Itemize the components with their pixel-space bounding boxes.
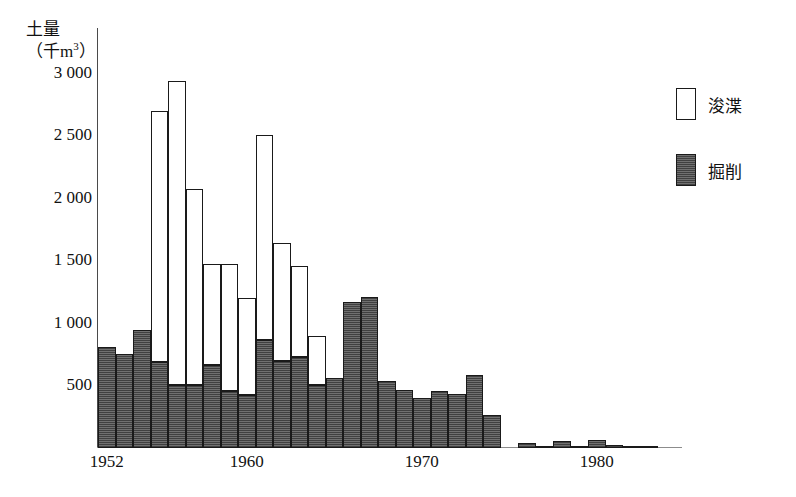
bar-segment-excavation-1963 [291,357,309,448]
legend: 浚渫掘削 [676,88,786,220]
bar-segment-excavation-1962 [273,361,291,448]
bar-1952 [98,347,116,448]
bar-segment-excavation-1967 [361,297,379,448]
bar-1976 [518,443,536,448]
bar-1961 [256,135,274,448]
bar-segment-dredging-1964 [308,336,326,385]
bar-chart: 土量（千m3） 5001 0001 5002 0002 5003 000 195… [0,0,796,497]
bar-1970 [413,398,431,448]
bar-segment-excavation-1969 [396,390,414,448]
bar-segment-dredging-1959 [221,264,239,391]
bar-segment-excavation-1961 [256,340,274,448]
bar-1973 [466,375,484,448]
bar-1972 [448,394,466,448]
bar-1958 [203,264,221,448]
y-axis-tick-1500: 1 500 [54,250,92,270]
bar-segment-dredging-1963 [291,266,309,357]
bar-1969 [396,390,414,448]
bar-1980 [588,440,606,448]
y-axis-tick-3000: 3 000 [54,63,92,83]
legend-label: 浚渫 [708,92,742,117]
bar-1957 [186,189,204,448]
bar-1968 [378,381,396,448]
bar-segment-excavation-1954 [133,330,151,448]
bar-segment-dredging-1962 [273,243,291,361]
bar-1971 [431,391,449,448]
bar-1979 [571,446,589,449]
bar-1964 [308,336,326,448]
y-axis-tick-500: 500 [67,375,93,395]
bar-segment-dredging-1960 [238,298,256,394]
bar-1978 [553,441,571,449]
bar-segment-excavation-1976 [518,443,536,448]
bar-segment-dredging-1956 [168,81,186,385]
bar-segment-excavation-1971 [431,391,449,448]
bar-segment-excavation-1953 [116,354,134,448]
bar-segment-excavation-1970 [413,398,431,448]
bar-1953 [116,354,134,448]
bar-1955 [151,111,169,448]
bar-segment-dredging-1955 [151,111,169,362]
x-axis-tick-1980: 1980 [580,452,614,472]
bar-segment-dredging-1957 [186,189,204,385]
bar-segment-excavation-1972 [448,394,466,448]
y-axis-tick-2500: 2 500 [54,125,92,145]
bar-1981 [606,445,624,448]
bar-segment-excavation-1965 [326,378,344,448]
legend-swatch-icon-dark [676,154,696,186]
bar-1962 [273,243,291,448]
bar-segment-excavation-1982 [623,446,641,449]
bar-1965 [326,378,344,448]
bar-segment-excavation-1978 [553,441,571,449]
y-axis-tick-2000: 2 000 [54,188,92,208]
bar-1954 [133,330,151,448]
bar-1959 [221,264,239,448]
bar-1960 [238,298,256,448]
bar-1974 [483,415,501,448]
x-axis-tick-1970: 1970 [405,452,439,472]
bar-1963 [291,266,309,448]
bar-segment-excavation-1960 [238,395,256,448]
bar-segment-excavation-1983 [641,446,659,448]
legend-item-1: 浚渫 [676,88,786,120]
y-axis-tick-1000: 1 000 [54,313,92,333]
legend-item-2: 掘削 [676,154,786,186]
x-axis-tick-labels: 1952196019701980 [0,452,796,484]
bar-segment-excavation-1979 [571,446,589,449]
bar-1966 [343,302,361,448]
y-axis-tick-labels: 5001 0001 5002 0002 5003 000 [20,0,92,497]
bar-segment-excavation-1955 [151,362,169,448]
x-axis-tick-1960: 1960 [230,452,264,472]
bar-1977 [536,446,554,449]
bar-segment-excavation-1977 [536,446,554,449]
bar-segment-excavation-1968 [378,381,396,448]
bar-1967 [361,297,379,448]
bar-segment-excavation-1973 [466,375,484,448]
bar-segment-dredging-1958 [203,264,221,365]
bar-segment-excavation-1959 [221,391,239,448]
bar-1956 [168,81,186,448]
x-axis-tick-1952: 1952 [90,452,124,472]
bar-segment-excavation-1974 [483,415,501,448]
bar-segment-dredging-1961 [256,135,274,340]
bar-1982 [623,446,641,449]
bar-segment-excavation-1981 [606,445,624,448]
bar-segment-excavation-1966 [343,302,361,448]
bar-segment-excavation-1952 [98,347,116,448]
plot-area [98,60,658,448]
bar-segment-excavation-1956 [168,385,186,448]
legend-swatch-icon-light [676,88,696,120]
bar-segment-excavation-1958 [203,365,221,448]
bar-segment-excavation-1957 [186,385,204,448]
bar-1983 [641,447,659,448]
legend-label: 掘削 [708,158,742,183]
bar-segment-excavation-1980 [588,440,606,448]
bar-segment-excavation-1964 [308,385,326,448]
